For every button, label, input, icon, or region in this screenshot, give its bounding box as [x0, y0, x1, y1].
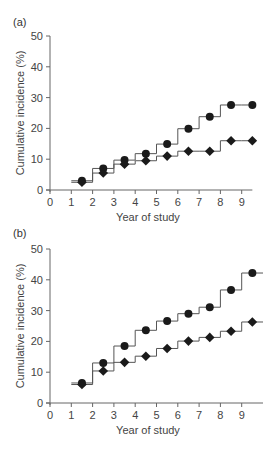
- diamond-marker: [205, 146, 215, 156]
- diamond-marker: [141, 351, 151, 361]
- x-tick-label: 4: [132, 409, 138, 421]
- diamond-marker: [205, 333, 215, 343]
- x-tick-label: 0: [47, 409, 53, 421]
- circle-marker: [142, 326, 150, 334]
- diamond-marker: [248, 136, 258, 146]
- diamond-step-line: [71, 141, 252, 183]
- circle-marker: [184, 125, 192, 133]
- y-axis-label: Cumulative incidence (%): [14, 51, 26, 176]
- diamond-marker: [226, 326, 236, 336]
- y-tick-label: 20: [31, 122, 43, 134]
- y-tick-label: 50: [31, 30, 43, 42]
- y-tick-label: 10: [31, 153, 43, 165]
- diamond-marker: [162, 344, 172, 354]
- x-tick-label: 8: [217, 409, 223, 421]
- diamond-marker: [162, 151, 172, 161]
- circle-marker: [206, 303, 214, 311]
- diamond-marker: [141, 156, 151, 166]
- y-tick-label: 0: [37, 184, 43, 196]
- x-tick-label: 7: [196, 409, 202, 421]
- y-axis-label: Cumulative incidence (%): [14, 264, 26, 389]
- diamond-marker: [98, 366, 108, 376]
- circle-marker: [163, 317, 171, 325]
- circle-marker: [99, 359, 107, 367]
- y-tick-label: 20: [31, 335, 43, 347]
- circle-marker: [184, 310, 192, 318]
- y-tick-label: 10: [31, 366, 43, 378]
- circle-step-line: [71, 105, 252, 181]
- x-tick-label: 9: [239, 409, 245, 421]
- x-axis-label: Year of study: [116, 424, 180, 436]
- diamond-marker: [120, 358, 130, 368]
- circle-marker: [206, 113, 214, 121]
- y-tick-label: 50: [31, 243, 43, 255]
- chart-a-plot: 010203040500123456789Year of studyCumula…: [0, 0, 280, 220]
- diamond-marker: [248, 317, 258, 327]
- y-tick-label: 0: [37, 397, 43, 409]
- y-tick-label: 40: [31, 61, 43, 73]
- circle-marker: [248, 269, 256, 277]
- panel-b: (b) 010203040500123456789Year of studyCu…: [0, 200, 280, 449]
- circle-marker: [163, 140, 171, 148]
- diamond-marker: [226, 136, 236, 146]
- x-tick-label: 6: [175, 409, 181, 421]
- circle-marker: [248, 101, 256, 109]
- x-tick-label: 3: [111, 409, 117, 421]
- y-tick-label: 30: [31, 305, 43, 317]
- circle-marker: [227, 101, 235, 109]
- chart-b-plot: 010203040500123456789Year of studyCumula…: [0, 200, 280, 449]
- x-tick-label: 1: [68, 409, 74, 421]
- circle-marker: [227, 286, 235, 294]
- x-tick-label: 2: [90, 409, 96, 421]
- y-tick-label: 30: [31, 92, 43, 104]
- circle-marker: [121, 342, 129, 350]
- y-tick-label: 40: [31, 274, 43, 286]
- panel-a: (a) 010203040500123456789Year of studyCu…: [0, 0, 280, 220]
- x-tick-label: 5: [153, 409, 159, 421]
- diamond-marker: [184, 146, 194, 156]
- diamond-marker: [184, 336, 194, 346]
